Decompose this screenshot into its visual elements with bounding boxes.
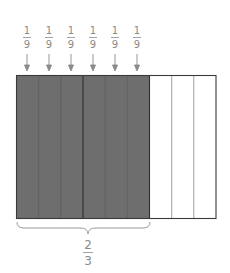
down-arrow-icon	[91, 54, 96, 71]
numerator: 1	[46, 25, 52, 36]
denominator: 9	[134, 39, 140, 50]
fraction-label-5: 1 9	[111, 25, 119, 50]
denominator: 9	[46, 39, 52, 50]
fraction-diagram: 1 9 1 9 1 9 1 9 1 9 1 9	[0, 0, 230, 273]
unshaded-region	[150, 76, 217, 219]
down-arrow-icon	[69, 54, 74, 71]
brace-fraction-label: 2 3	[83, 238, 93, 268]
down-arrow-icon	[135, 54, 140, 71]
numerator: 2	[84, 238, 92, 252]
fraction-bar-model	[17, 76, 217, 219]
numerator: 1	[134, 25, 140, 36]
fraction-label-1: 1 9	[23, 25, 31, 50]
denominator: 9	[68, 39, 74, 50]
fraction-label-6: 1 9	[133, 25, 141, 50]
down-arrow-icon	[25, 54, 30, 71]
denominator: 9	[112, 39, 118, 50]
fraction-label-4: 1 9	[89, 25, 97, 50]
denominator: 9	[24, 39, 30, 50]
down-arrow-icon	[113, 54, 118, 71]
down-arrow-icons	[25, 54, 140, 71]
numerator: 1	[90, 25, 96, 36]
numerator: 1	[24, 25, 30, 36]
numerator: 1	[68, 25, 74, 36]
denominator: 3	[84, 254, 92, 268]
numerator: 1	[112, 25, 118, 36]
denominator: 9	[90, 39, 96, 50]
down-arrow-icon	[47, 54, 52, 71]
fraction-label-2: 1 9	[45, 25, 53, 50]
unit-fraction-labels: 1 9 1 9 1 9 1 9 1 9 1 9	[23, 25, 141, 50]
brace-icon	[17, 222, 150, 234]
fraction-label-3: 1 9	[67, 25, 75, 50]
